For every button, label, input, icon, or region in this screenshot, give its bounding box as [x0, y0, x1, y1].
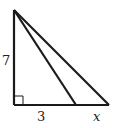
hypotenuse-outer: [14, 10, 109, 105]
extension-segment-label: x: [93, 109, 101, 124]
hypotenuse-inner: [14, 10, 76, 105]
height-label: 7: [2, 53, 10, 68]
triangle-diagram: 7 3 x: [0, 0, 116, 128]
base-segment-label: 3: [37, 109, 45, 124]
right-angle-marker: [14, 96, 23, 105]
